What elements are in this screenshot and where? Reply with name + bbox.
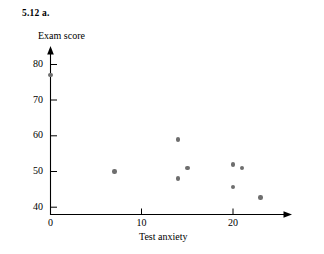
x-axis-title: Test anxiety — [139, 231, 187, 242]
y-axis-title: Exam score — [38, 30, 85, 41]
x-tick-label-0: 0 — [39, 217, 63, 228]
y-tick-label-40: 40 — [23, 201, 43, 212]
y-axis-arrowhead — [47, 46, 54, 55]
y-tick-label-50: 50 — [23, 165, 43, 176]
scatter-plot: Exam score Test anxiety 80 70 60 50 40 0… — [0, 0, 324, 254]
data-point — [48, 73, 52, 77]
x-axis-arrowhead — [284, 211, 293, 218]
data-point — [231, 162, 235, 166]
data-point — [176, 137, 180, 141]
y-tick-label-80: 80 — [23, 58, 43, 69]
data-point — [258, 195, 262, 199]
x-tick-label-20: 20 — [221, 217, 245, 228]
x-tick-label-10: 10 — [130, 217, 154, 228]
data-point — [112, 169, 116, 173]
data-point — [185, 166, 189, 170]
figure-container: 5.12 a. E — [0, 0, 324, 254]
x-axis-ticks — [51, 209, 234, 215]
y-tick-label-70: 70 — [23, 94, 43, 105]
y-tick-label-60: 60 — [23, 129, 43, 140]
y-axis-ticks — [51, 65, 58, 208]
